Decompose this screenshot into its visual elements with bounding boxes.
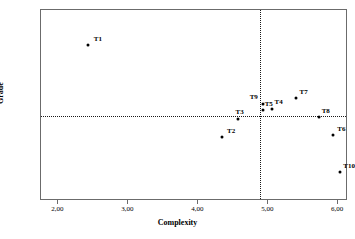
x-axis-tick [267, 200, 268, 204]
data-point [236, 117, 239, 120]
x-axis-tick-label: 2,00 [51, 205, 63, 213]
x-axis-tick-label: 3,00 [121, 205, 133, 213]
data-point [294, 97, 297, 100]
scatter-plot-figure: T1T2T3T9T5T4T7T8T6T10 5,506,006,507,007,… [0, 0, 355, 239]
data-point-label: T10 [343, 163, 355, 170]
data-point-label: T8 [322, 108, 330, 115]
data-point-label: T1 [94, 36, 102, 43]
plot-area: T1T2T3T9T5T4T7T8T6T10 [40, 9, 347, 200]
data-point-label: T3 [236, 109, 244, 116]
x-axis-tick [57, 200, 58, 204]
data-point [271, 108, 274, 111]
horizontal-reference-line [41, 116, 346, 117]
data-point [332, 134, 335, 137]
x-axis-tick-label: 4,00 [191, 205, 203, 213]
data-point [317, 116, 320, 119]
x-axis-tick [337, 200, 338, 204]
x-axis-tick [127, 200, 128, 204]
data-point-label: T9 [250, 94, 258, 101]
data-point [339, 170, 342, 173]
x-axis-title: Complexity [0, 218, 355, 227]
x-axis-tick [197, 200, 198, 204]
x-axis-tick-label: 6,00 [331, 205, 343, 213]
data-point [261, 109, 264, 112]
y-axis-title: Grade [0, 82, 5, 104]
data-point [221, 136, 224, 139]
data-point [86, 44, 89, 47]
data-point-label: T7 [300, 89, 308, 96]
data-point-label: T6 [337, 126, 345, 133]
data-point-label: T2 [227, 128, 235, 135]
data-point-label: T4 [274, 99, 282, 106]
x-axis-tick-label: 5,00 [261, 205, 273, 213]
